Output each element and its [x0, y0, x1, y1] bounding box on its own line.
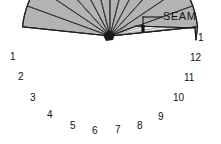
seam-location-tick-icon	[141, 25, 144, 32]
gore-number-label: 10	[173, 93, 184, 103]
gore-number-label: 4	[47, 110, 53, 120]
gore-number-label: 6	[92, 126, 98, 136]
gore-number-label: 1	[10, 52, 16, 62]
gore-number-label: 11	[184, 73, 194, 83]
gore-number-label: 3	[30, 93, 36, 103]
gore-number-label: 8	[137, 121, 143, 131]
gore-number-label: 7	[115, 125, 121, 135]
gore-number-label: 12	[190, 53, 201, 63]
seam-callout-label: SEAM	[163, 11, 197, 22]
gore-number-label: 5	[70, 121, 76, 131]
gore-number-label: 9	[158, 112, 164, 122]
gore-number-label: 2	[18, 72, 24, 82]
gore-number-label: 1	[198, 33, 204, 43]
gore-pattern-figure: 1234567891011121 SEAM	[0, 0, 221, 144]
